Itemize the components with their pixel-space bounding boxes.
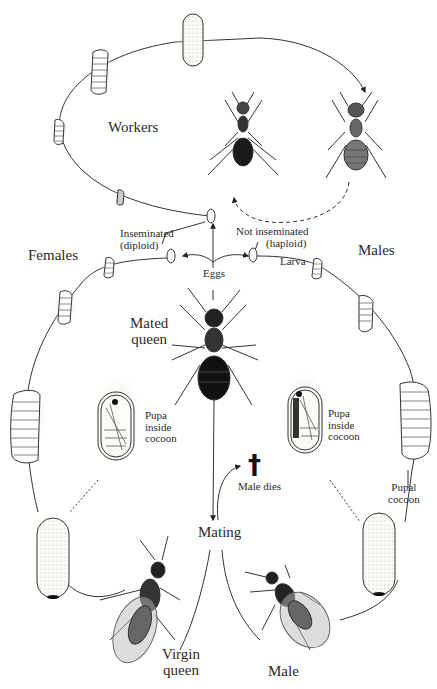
virgin-queen-label: Virgin queen bbox=[162, 647, 200, 679]
worker-egg bbox=[207, 209, 215, 223]
female-larva-large bbox=[5, 383, 49, 463]
female-larva-medium bbox=[51, 287, 79, 327]
male-larva-small bbox=[309, 254, 327, 282]
pupa-right-line1: Pupa bbox=[328, 408, 360, 420]
worker-larva-small bbox=[113, 187, 127, 207]
mated-queen-line1: Mated bbox=[130, 316, 168, 332]
life-cycle-diagram bbox=[0, 0, 437, 689]
pupa-left-line1: Pupa bbox=[145, 410, 177, 422]
inseminated-line2: (diploid) bbox=[120, 240, 174, 252]
mated-queen-ant bbox=[172, 288, 258, 405]
male-pupa-in-cocoon bbox=[281, 366, 329, 454]
not-inseminated-label: Not inseminated (haploid) bbox=[236, 226, 308, 249]
inseminated-line1: Inseminated bbox=[120, 228, 174, 240]
worker-larva-medium bbox=[49, 115, 69, 145]
virgin-queen-line1: Virgin bbox=[162, 647, 200, 663]
dagger-icon: † bbox=[248, 452, 261, 478]
larva-label: Larva bbox=[280, 256, 306, 268]
male-ant bbox=[245, 565, 340, 657]
male-larva-medium bbox=[353, 293, 377, 333]
eggs-label: Eggs bbox=[203, 268, 225, 280]
female-egg bbox=[167, 249, 175, 263]
male-dies-label: Male dies bbox=[238, 481, 281, 493]
worker-cocoon bbox=[172, 12, 212, 72]
not-inseminated-line2: (haploid) bbox=[236, 238, 308, 250]
mated-queen-line2: queen bbox=[130, 332, 168, 348]
pupal-cocoon-label: Pupal cocoon bbox=[388, 482, 420, 505]
female-cocoon bbox=[31, 515, 75, 599]
pupa-inside-cocoon-left-label: Pupa inside cocoon bbox=[145, 410, 177, 445]
pupa-left-line3: cocoon bbox=[145, 433, 177, 445]
worker-ant-dark bbox=[208, 92, 278, 175]
inseminated-label: Inseminated (diploid) bbox=[120, 228, 174, 251]
mated-queen-label: Mated queen bbox=[130, 316, 168, 348]
females-label: Females bbox=[28, 248, 78, 264]
pupa-right-line3: cocoon bbox=[328, 431, 360, 443]
male-label: Male bbox=[268, 664, 299, 680]
female-pupa-in-cocoon bbox=[93, 370, 145, 462]
pupa-inside-cocoon-right-label: Pupa inside cocoon bbox=[328, 408, 360, 443]
virgin-queen-line2: queen bbox=[162, 663, 200, 679]
worker-ant-light bbox=[326, 92, 386, 178]
male-cocoon bbox=[358, 513, 402, 597]
pupal-cocoon-line1: Pupal bbox=[388, 482, 420, 494]
workers-label: Workers bbox=[108, 120, 158, 136]
males-label: Males bbox=[358, 243, 395, 259]
pupal-cocoon-line2: cocoon bbox=[388, 494, 420, 506]
male-egg bbox=[249, 248, 257, 262]
mating-label: Mating bbox=[198, 525, 241, 541]
male-larva-large bbox=[393, 382, 437, 459]
not-inseminated-line1: Not inseminated bbox=[236, 226, 308, 238]
worker-larva-large bbox=[87, 48, 115, 96]
female-larva-small bbox=[100, 253, 118, 281]
